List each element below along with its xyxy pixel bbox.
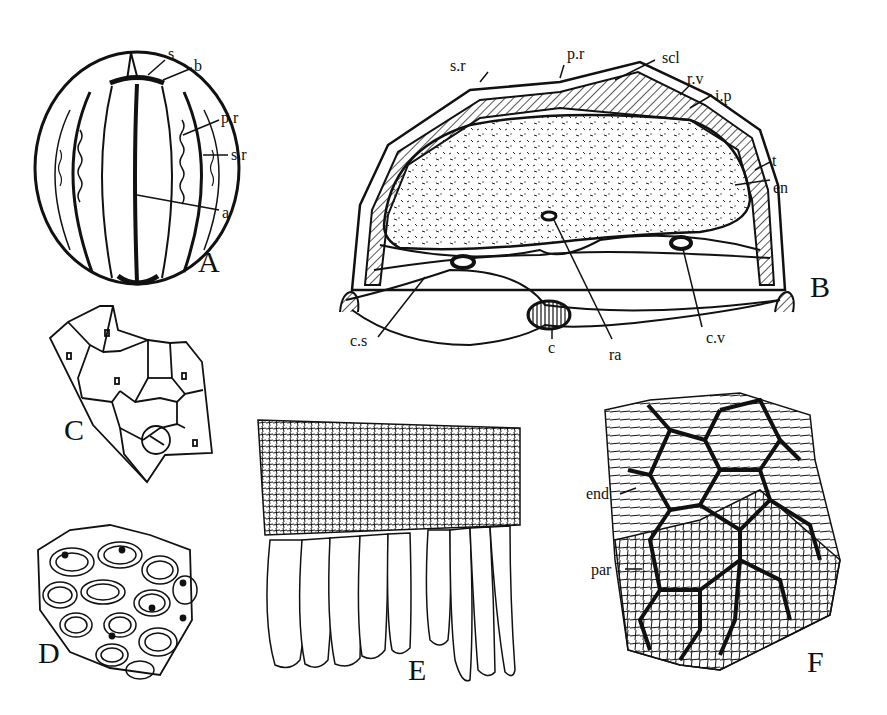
label-b-cs: c.s bbox=[350, 333, 367, 349]
label-b-pr: p.r bbox=[567, 46, 584, 62]
label-a-pr: p.r bbox=[221, 110, 238, 126]
panel-c-epidermis bbox=[50, 306, 212, 482]
label-a-s: s bbox=[168, 46, 174, 62]
label-a-sr: s.r bbox=[231, 147, 247, 163]
label-f-par: par bbox=[591, 562, 611, 578]
label-b-cv: c.v bbox=[706, 330, 725, 346]
label-b-c: c bbox=[548, 340, 555, 356]
panel-label-c: C bbox=[64, 415, 84, 445]
panel-label-a: A bbox=[198, 247, 220, 277]
label-b-scl: scl bbox=[662, 50, 680, 66]
panel-label-b: B bbox=[810, 272, 830, 302]
panel-f-cells bbox=[605, 393, 840, 670]
panel-label-f: F bbox=[807, 647, 824, 677]
figure-drawing bbox=[0, 0, 887, 715]
label-b-en: en bbox=[773, 180, 788, 196]
label-f-end: end bbox=[586, 486, 609, 502]
label-b-rv: r.v bbox=[687, 71, 703, 87]
panel-e-fibers bbox=[258, 420, 520, 681]
label-a-a: a bbox=[222, 205, 229, 221]
panel-label-d: D bbox=[38, 638, 60, 668]
panel-d-testa bbox=[38, 525, 197, 679]
label-b-ra: ra bbox=[609, 347, 621, 363]
label-b-t: t bbox=[772, 153, 776, 169]
panel-label-e: E bbox=[408, 655, 426, 685]
label-b-sr: s.r bbox=[450, 58, 466, 74]
label-b-ip: i.p bbox=[715, 88, 731, 104]
label-a-b: b bbox=[194, 58, 202, 74]
